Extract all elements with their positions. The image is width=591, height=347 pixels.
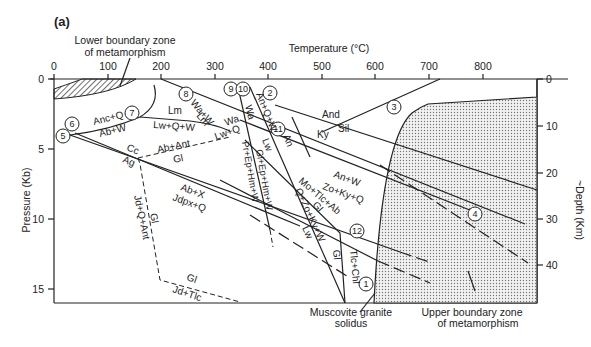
label-gl-1: Gl <box>172 152 184 165</box>
reaction-marker-3: 3 <box>387 100 401 114</box>
svg-text:8: 8 <box>183 89 188 99</box>
y-ticks-left <box>48 79 54 289</box>
label-an: An <box>281 133 296 148</box>
label-ag: Ag <box>121 154 136 169</box>
lower-boundary-zone <box>54 79 136 99</box>
svg-text:1: 1 <box>363 279 368 289</box>
depth-tick-30: 30 <box>546 213 558 225</box>
phase-diagram: (a) Lower boundary zone of metamorphism … <box>0 0 591 347</box>
svg-text:2: 2 <box>267 88 272 98</box>
depth-tick-10: 10 <box>546 120 558 132</box>
x-tick-300: 300 <box>206 60 224 72</box>
y-tick-5: 5 <box>38 143 44 155</box>
x-tick-200: 200 <box>152 60 170 72</box>
reaction-marker-4: 4 <box>468 207 482 221</box>
reaction-marker-5: 5 <box>56 129 70 143</box>
depth-tick-0: 0 <box>546 73 552 85</box>
label-jd-tlc: Jd+Tlc <box>171 283 203 303</box>
label-gl-5: Gl <box>331 249 343 260</box>
svg-text:7: 7 <box>129 108 134 118</box>
x-tick-700: 700 <box>420 60 438 72</box>
label-ky: Ky <box>317 129 329 140</box>
label-and: And <box>322 109 340 120</box>
y-ticks-right <box>537 79 543 265</box>
y-tick-10: 10 <box>32 213 44 225</box>
x-tick-0: 0 <box>51 60 57 72</box>
reaction-line-9-dashed <box>270 230 273 247</box>
x-tick-100: 100 <box>99 60 117 72</box>
lower-zone-label-1: Lower boundary zone <box>75 34 176 46</box>
y-axis-title: Pressure (Kb) <box>20 168 32 233</box>
svg-text:9: 9 <box>228 84 233 94</box>
solidus-label-2: solidus <box>335 317 368 329</box>
x-tick-400: 400 <box>259 60 277 72</box>
reaction-marker-7: 7 <box>125 106 139 120</box>
label-gl-2: Gl <box>148 212 161 224</box>
label-sil: Sil <box>338 123 349 134</box>
panel-label: (a) <box>54 14 70 29</box>
reaction-marker-6: 6 <box>65 117 79 131</box>
label-lm: Lm <box>168 105 182 116</box>
x-axis-title: Temperature (°C) <box>289 42 370 54</box>
label-tlc-chl: Tlc+Chl <box>348 249 362 284</box>
svg-text:3: 3 <box>391 102 396 112</box>
svg-text:10: 10 <box>238 84 248 94</box>
depth-axis-title: ~Depth (Km) <box>574 180 586 240</box>
label-lw-q: Lw+Q <box>213 122 242 141</box>
reaction-line-1-dashed <box>250 215 350 278</box>
svg-text:6: 6 <box>69 119 74 129</box>
upper-zone-label-2: of metamorphism <box>437 317 518 329</box>
depth-tick-20: 20 <box>546 167 558 179</box>
x-ticks <box>54 74 483 79</box>
depth-tick-40: 40 <box>546 259 558 271</box>
svg-text:5: 5 <box>60 131 65 141</box>
svg-text:4: 4 <box>472 209 477 219</box>
y-tick-15: 15 <box>32 283 44 295</box>
svg-text:12: 12 <box>352 226 362 236</box>
label-ab-ant: Ab+Ant <box>156 137 191 155</box>
reaction-marker-8: 8 <box>179 87 193 101</box>
reaction-marker-12: 12 <box>350 224 364 238</box>
lower-zone-label-2: of metamorphism <box>84 46 165 58</box>
curve-7 <box>140 85 155 117</box>
x-tick-500: 500 <box>313 60 331 72</box>
label-gl-3: Gl <box>185 271 198 285</box>
label-lw-q-w: Lw+Q+W <box>153 119 196 133</box>
reaction-marker-10: 10 <box>236 82 250 96</box>
y-tick-0: 0 <box>38 73 44 85</box>
x-tick-800: 800 <box>474 60 492 72</box>
x-tick-600: 600 <box>366 60 384 72</box>
